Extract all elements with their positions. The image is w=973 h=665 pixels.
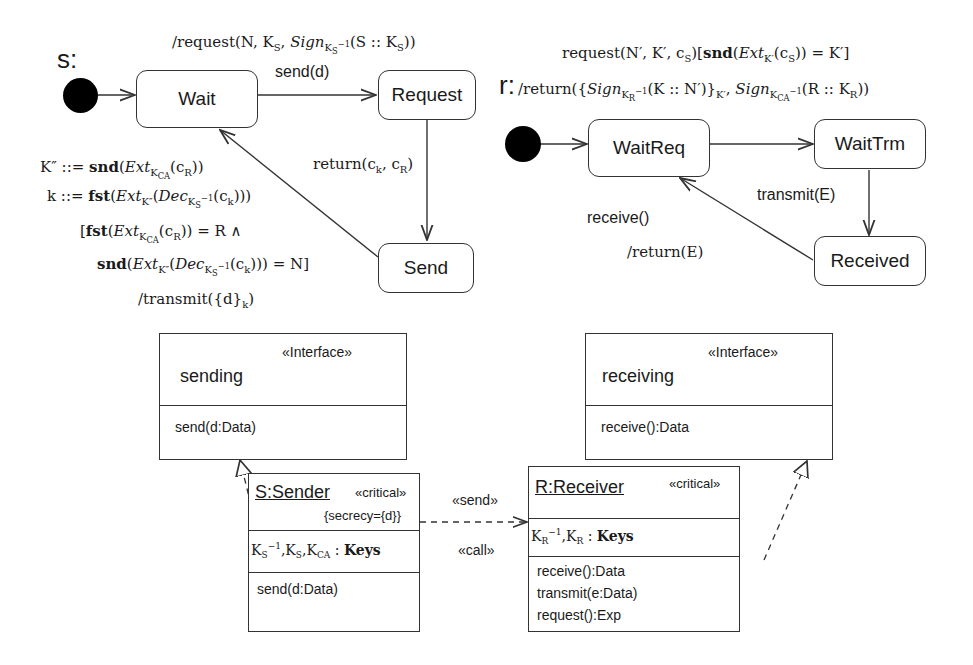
sender-statechart-label: s: [57,44,77,75]
state-waitreq[interactable]: WaitReq [588,119,710,177]
guard-line-3: [fst(ExtKCA(cR)) = R ∧ [80,222,242,245]
request-trigger-label: request(N′, K′, cS)[snd(ExtK′(cS)) = K′] [562,44,849,64]
interface-receiving[interactable]: «Interface» receiving receive():Data [585,333,833,460]
initial-state-icon [63,78,98,113]
receive-trigger-label: receive() [587,209,649,227]
send-trigger-label: send(d) [275,63,329,81]
guard-line-2: k ::= fst(ExtK″(DecKS−1(ck))) [47,187,251,210]
interface-sending[interactable]: «Interface» sending send(d:Data) [159,333,407,460]
component-attributes: KR−1,KR : Keys [531,527,634,546]
component-receiver[interactable]: R:Receiver «critical» KR−1,KR : Keys rec… [528,466,740,632]
interface-name: sending [180,366,243,387]
state-received[interactable]: Received [814,236,926,286]
dependency-call-stereotype: «call» [458,542,495,558]
guard-line-1: K″ ::= snd(ExtKCA(cR)) [40,158,204,181]
transmit-trigger-label: transmit(E) [757,186,835,204]
component-operation: request():Exp [537,607,621,623]
return-action-label: /return({SignKR−1(K :: N′)}K′, SignKCA−1… [518,80,869,103]
interface-operation: send(d:Data) [175,419,256,435]
component-operation: receive():Data [537,563,625,579]
interface-name: receiving [602,366,674,387]
component-stereotype: «critical» [669,476,720,491]
state-wait[interactable]: Wait [136,70,258,128]
dependency-send-stereotype: «send» [452,492,498,508]
component-tag: {secrecy={d}} [324,508,401,523]
state-waittrm[interactable]: WaitTrm [814,119,926,169]
return-e-action-label: /return(E) [627,243,703,261]
component-name: R:Receiver [535,477,624,498]
request-action-label: /request(N, KS, SignKS−1(S :: KS)) [172,33,416,56]
state-request[interactable]: Request [378,70,476,120]
initial-state-icon [505,126,541,162]
interface-stereotype: «Interface» [282,344,352,360]
guard-line-4: snd(ExtK″(DecKS−1(ck))) = N] [97,255,309,278]
component-attributes: KS−1,KS,KCA : Keys [251,541,381,560]
component-name: S:Sender [255,482,330,503]
component-operation: transmit(e:Data) [537,585,637,601]
state-send[interactable]: Send [378,243,474,293]
interface-operation: receive():Data [601,419,689,435]
component-operation: send(d:Data) [257,581,338,597]
interface-stereotype: «Interface» [708,344,778,360]
receiver-statechart-label: r: [499,70,515,101]
component-stereotype: «critical» [355,485,406,500]
return-trigger-label: return(ck, cR) [313,155,413,175]
transmit-action-label: /transmit({d}k) [138,290,254,310]
component-sender[interactable]: S:Sender «critical» {secrecy={d}} KS−1,K… [248,473,420,632]
